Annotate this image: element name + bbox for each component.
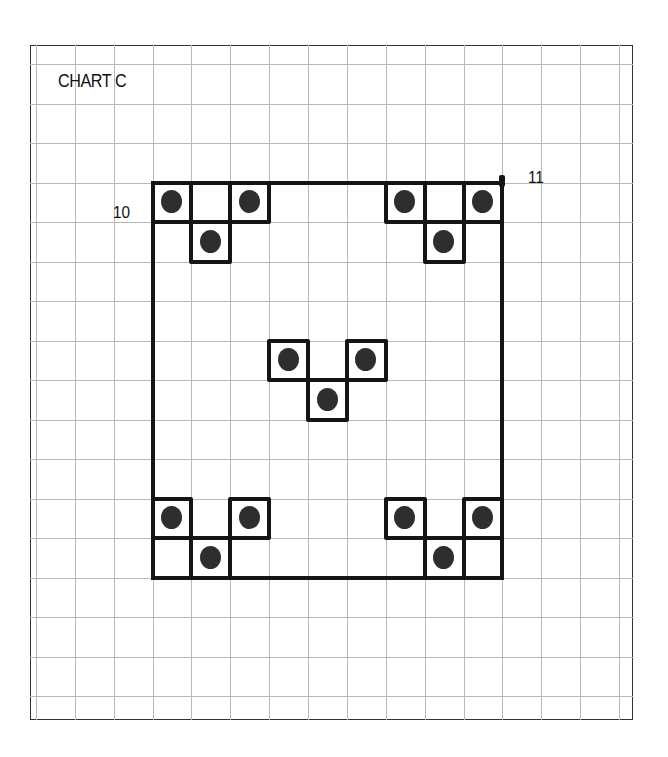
dot-icon (161, 190, 182, 213)
dot-icon (433, 546, 454, 569)
grid-line-vertical (36, 45, 37, 720)
empty-cell (462, 536, 505, 580)
corner-label-11: 11 (528, 168, 544, 188)
dot-icon (472, 506, 493, 529)
dotted-cell (384, 181, 427, 225)
dotted-cell (189, 536, 232, 580)
grid-line-vertical (114, 45, 115, 720)
dot-icon (355, 348, 376, 371)
dotted-cell (423, 220, 466, 264)
dot-icon (433, 230, 454, 253)
dotted-cell (306, 378, 349, 422)
dot-icon (200, 230, 221, 253)
dot-icon (394, 506, 415, 529)
dotted-cell (462, 181, 505, 225)
dot-icon (278, 348, 299, 371)
corner-label-10: 10 (113, 203, 130, 223)
dotted-cell (151, 497, 194, 541)
dot-icon (394, 190, 415, 213)
dotted-cell (462, 497, 505, 541)
dotted-cell (267, 339, 310, 383)
dotted-cell (228, 181, 271, 225)
dot-icon (472, 190, 493, 213)
grid-line-horizontal (30, 696, 633, 697)
grid-line-vertical (75, 45, 76, 720)
dot-icon (161, 506, 182, 529)
grid-line-vertical (541, 45, 542, 720)
grid-line-horizontal (30, 64, 633, 65)
dot-icon (239, 506, 260, 529)
grid-line-horizontal (30, 617, 633, 618)
dotted-cell (151, 181, 194, 225)
grid-line-horizontal (30, 104, 633, 105)
chart-title: CHART C (58, 70, 126, 92)
grid-line-vertical (580, 45, 581, 720)
dotted-cell (423, 536, 466, 580)
dotted-cell (228, 497, 271, 541)
dot-icon (239, 190, 260, 213)
grid-line-vertical (619, 45, 620, 720)
grid-line-horizontal (30, 143, 633, 144)
dotted-cell (189, 220, 232, 264)
dotted-cell (384, 497, 427, 541)
dot-icon (317, 388, 338, 411)
empty-cell (423, 181, 466, 225)
dot-icon (200, 546, 221, 569)
dotted-cell (345, 339, 388, 383)
grid-line-horizontal (30, 657, 633, 658)
empty-cell (151, 536, 194, 580)
empty-cell (189, 181, 232, 225)
corner-marker-11 (499, 175, 505, 187)
